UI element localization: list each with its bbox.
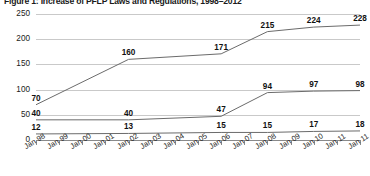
data-label: 70 <box>31 95 40 103</box>
data-label: 94 <box>263 83 272 91</box>
data-label: 224 <box>307 17 321 25</box>
data-label: 171 <box>214 44 228 52</box>
data-label: 13 <box>124 123 133 131</box>
y-tick-label: 200 <box>0 35 30 43</box>
y-tick-label: 250 <box>0 10 30 18</box>
data-label: 15 <box>263 122 272 130</box>
y-tick-label: 150 <box>0 60 30 68</box>
y-axis: 050100150200250 <box>0 14 32 140</box>
data-label: 160 <box>122 49 136 57</box>
data-label: 40 <box>124 110 133 118</box>
data-label: 12 <box>31 124 40 132</box>
y-tick-label: 100 <box>0 86 30 94</box>
data-label: 228 <box>353 15 367 23</box>
data-label: 17 <box>309 121 318 129</box>
chart-title: Figure 1: Increase of PFLP Laws and Regu… <box>4 0 364 7</box>
data-label: 47 <box>217 106 226 114</box>
data-label: 18 <box>355 121 364 129</box>
y-tick-label: 50 <box>0 111 30 119</box>
line-middle-series <box>36 91 360 120</box>
data-label: 97 <box>309 81 318 89</box>
x-axis-labels: Jan 98Jan 99Jan 00Jan 01Jan 02Jan 03Jan … <box>0 144 366 176</box>
data-label: 215 <box>261 22 275 30</box>
data-label: 40 <box>31 110 40 118</box>
data-label: 15 <box>217 122 226 130</box>
data-label: 98 <box>355 81 364 89</box>
line-top-series <box>36 25 360 105</box>
